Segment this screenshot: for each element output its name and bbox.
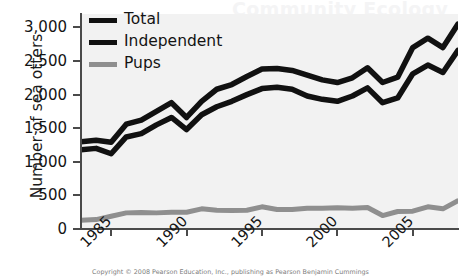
sea-otter-population-figure: Community Ecology Number of sea otters 0… [0,0,461,279]
legend-swatch-independent [89,40,117,45]
copyright-notice: Copyright © 2008 Pearson Education, Inc.… [0,268,461,276]
y-tick-label: 1,000 [24,153,67,171]
y-tick-label: 2,500 [24,52,67,70]
y-tick-label: 500 [38,186,67,204]
y-tick-mark [73,194,81,196]
y-tick-label: 0 [57,220,67,238]
x-tick-mark [412,229,414,236]
y-tick-mark [73,94,81,96]
y-tick-mark [73,228,81,230]
x-tick-mark [110,229,112,236]
x-tick-mark [336,229,338,236]
y-tick-mark [73,26,81,28]
legend-item-total: Total [89,10,222,30]
legend-label-independent: Independent [124,34,222,50]
legend-swatch-total [89,18,117,23]
y-tick-mark [73,161,81,163]
y-tick-label: 2,000 [24,86,67,104]
y-axis-line [80,13,82,230]
legend-label-pups: Pups [124,56,161,72]
legend-item-pups: Pups [89,54,222,74]
x-tick-mark [261,229,263,236]
x-tick-mark [186,229,188,236]
chart-legend: Total Independent Pups [89,10,222,76]
y-tick-label: 3,000 [24,18,67,36]
y-tick-mark [73,60,81,62]
legend-label-total: Total [124,12,160,28]
y-tick-mark [73,127,81,129]
legend-item-independent: Independent [89,32,222,52]
y-tick-label: 1,500 [24,119,67,137]
legend-swatch-pups [89,62,117,67]
